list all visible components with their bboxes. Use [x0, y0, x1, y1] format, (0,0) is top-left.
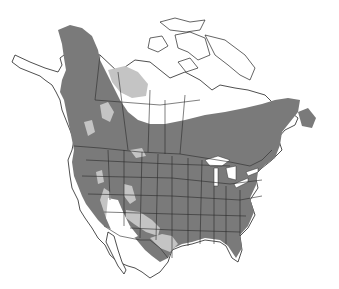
- primary-range-newfoundland: [298, 108, 316, 128]
- arctic-islands: [148, 18, 255, 80]
- range-map: [0, 0, 339, 289]
- arctic-island: [205, 35, 255, 80]
- lake-michigan: [214, 168, 218, 186]
- arctic-island: [178, 58, 198, 72]
- arctic-island: [160, 18, 205, 32]
- arctic-island: [148, 36, 168, 52]
- arctic-island: [175, 32, 210, 60]
